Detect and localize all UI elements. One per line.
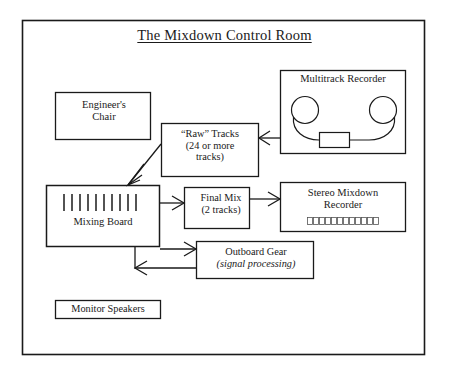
page-title: The Mixdown Control Room [0, 27, 449, 44]
led-segment-icon [374, 218, 379, 225]
led-segment-icon [338, 218, 343, 225]
led-segment-icon [326, 218, 331, 225]
connector-raw-tracks-to-mixing-board [128, 144, 161, 185]
led-segment-icon [356, 218, 361, 225]
led-segment-icon [332, 218, 337, 225]
led-segment-icon [320, 218, 325, 225]
engineer-chair-box[interactable] [56, 93, 151, 140]
led-segment-icon [344, 218, 349, 225]
led-segment-icon [362, 218, 367, 225]
tape-head-block-icon [320, 133, 350, 148]
connector-mixing-board-to-outboard-gear [160, 242, 196, 256]
stereo-mixdown-recorder-box[interactable] [281, 183, 406, 232]
final-mix-box[interactable] [185, 188, 250, 229]
connector-mixing-board-to-final-mix [160, 196, 184, 210]
connector-multitrack-to-raw-tracks [259, 131, 280, 145]
raw-tracks-box[interactable] [162, 124, 259, 177]
connector-outboard-gear-return [135, 247, 196, 275]
monitor-speakers-box[interactable] [56, 301, 161, 319]
led-segment-icon [308, 218, 313, 225]
led-segment-icon [350, 218, 355, 225]
connector-final-mix-to-stereo-recorder [250, 192, 280, 206]
mixdown-control-room-diagram [0, 0, 449, 376]
led-segment-icon [314, 218, 319, 225]
led-segment-icon [368, 218, 373, 225]
diagram-canvas: The Mixdown Control Room Engineer's Chai… [0, 0, 449, 376]
outboard-gear-box[interactable] [197, 242, 314, 279]
